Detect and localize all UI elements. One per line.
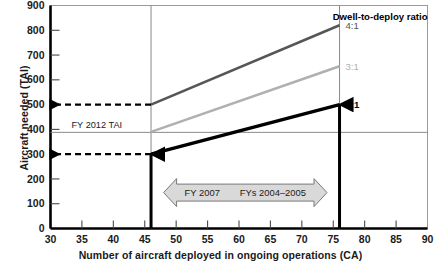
x-tick-label: 70	[296, 233, 308, 245]
series-lines	[151, 25, 339, 154]
chart-figure: 0100200300400500600700800900 30354045505…	[0, 0, 441, 267]
series-line-4-1	[151, 25, 339, 104]
x-tick-label: 60	[233, 233, 245, 245]
series-line-2-1	[151, 105, 339, 155]
chart-text-labels: 4:13:12:1Dwell-to-deploy ratio	[333, 11, 428, 111]
x-tick-label: 35	[76, 233, 88, 245]
x-tick-label: 40	[107, 233, 119, 245]
x-axis-title: Number of aircraft deployed in ongoing o…	[0, 249, 441, 261]
x-tick-label: 75	[327, 233, 339, 245]
range-band-left-label: FY 2007	[185, 187, 220, 198]
range-band-right-label: FYs 2004–2005	[240, 187, 306, 198]
chart-canvas: 0100200300400500600700800900 30354045505…	[0, 0, 441, 267]
y-axis-ticks: 0100200300400500600700800900	[27, 0, 60, 234]
x-tick-label: 55	[202, 233, 214, 245]
x-tick-label: 45	[139, 233, 151, 245]
x-tick-label: 90	[422, 233, 434, 245]
legend-title: Dwell-to-deploy ratio	[333, 11, 428, 22]
range-band: FY 2007FYs 2004–2005	[164, 179, 327, 207]
x-axis-ticks: 30354045505560657075808590	[45, 221, 434, 245]
series-label-3-1: 3:1	[346, 61, 359, 72]
x-tick-label: 85	[390, 233, 402, 245]
series-label-4-1: 4:1	[346, 20, 359, 31]
x-tick-label: 30	[45, 233, 57, 245]
x-tick-label: 80	[359, 233, 371, 245]
series-line-3-1	[151, 66, 339, 132]
y-axis-title: Aircraft needed (TAI)	[18, 8, 30, 228]
x-tick-label: 65	[265, 233, 277, 245]
x-tick-label: 50	[170, 233, 182, 245]
series-label-2-1: 2:1	[346, 99, 361, 110]
fy-2012-tai-label: FY 2012 TAI	[72, 120, 123, 130]
